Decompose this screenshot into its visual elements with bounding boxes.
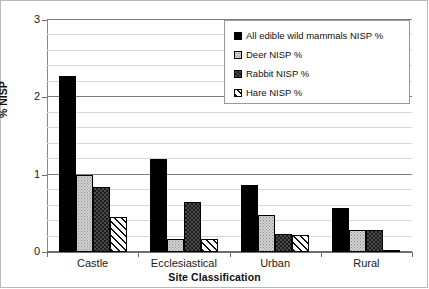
- bar: [349, 230, 366, 252]
- bar: [332, 208, 349, 252]
- x-axis-category-label: Castle: [47, 257, 138, 269]
- y-axis-tick-label: 2: [18, 91, 40, 102]
- legend-swatch-rabbit-icon: [234, 70, 242, 78]
- bar: [275, 234, 292, 252]
- x-axis-tick-mark: [412, 252, 413, 257]
- bar-group: [59, 20, 127, 252]
- legend-item[interactable]: All edible wild mammals NISP %: [234, 26, 409, 45]
- x-axis-category-label: Rural: [321, 257, 412, 269]
- x-axis-category-label: Urban: [230, 257, 321, 269]
- legend-label: Rabbit NISP %: [246, 69, 309, 79]
- bar: [93, 187, 110, 252]
- legend-item[interactable]: Hare NISP %: [234, 83, 409, 102]
- x-axis-title: Site Classification: [0, 271, 429, 283]
- legend-label: Deer NISP %: [246, 50, 302, 60]
- x-axis-category-label: Ecclesiastical: [138, 257, 229, 269]
- bar: [59, 76, 76, 252]
- bar-group: [150, 20, 218, 252]
- bar: [110, 217, 127, 252]
- legend-item[interactable]: Deer NISP %: [234, 45, 409, 64]
- bar: [241, 185, 258, 252]
- legend-label: Hare NISP %: [246, 88, 302, 98]
- legend-swatch-deer-icon: [234, 51, 242, 59]
- legend-swatch-all-edible-wild-mammals-icon: [234, 32, 242, 40]
- y-axis-tick-label: 1: [18, 169, 40, 180]
- y-axis-tick-label: 0: [18, 246, 40, 257]
- legend-label: All edible wild mammals NISP %: [246, 31, 383, 41]
- bar: [258, 215, 275, 252]
- legend-swatch-hare-icon: [234, 89, 242, 97]
- bar: [184, 202, 201, 252]
- bar: [76, 175, 93, 252]
- bar: [366, 230, 383, 252]
- bar: [150, 159, 167, 252]
- legend-item[interactable]: Rabbit NISP %: [234, 64, 409, 83]
- y-axis-title: % NISP: [0, 81, 9, 118]
- bar: [167, 239, 184, 252]
- bar: [292, 235, 309, 252]
- bar: [201, 239, 218, 252]
- y-axis-tick-label: 3: [18, 14, 40, 25]
- chart-legend: All edible wild mammals NISP % Deer NISP…: [224, 20, 410, 104]
